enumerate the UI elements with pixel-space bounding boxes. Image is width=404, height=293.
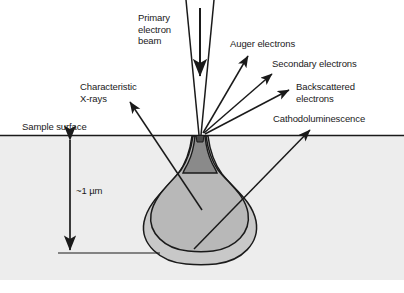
beam-edge-left	[186, 0, 199, 135]
secondary-label: Secondary electrons	[272, 58, 357, 70]
sample-surface-label: Sample surface	[22, 121, 87, 133]
beam-edge-right	[201, 0, 214, 135]
characteristic-xrays-label: Characteristic X-rays	[80, 81, 137, 104]
primary-beam-label: Primary electron beam	[138, 12, 171, 47]
impact-cap	[196, 136, 204, 143]
auger-arrow	[203, 56, 248, 133]
backscattered-label: Backscattered electrons	[296, 81, 355, 104]
auger-label: Auger electrons	[230, 38, 295, 50]
interaction-volume-diagram: Primary electron beam Auger electrons Se…	[0, 0, 404, 293]
depth-label: ~1 µm	[76, 185, 102, 197]
diagram-canvas	[0, 0, 404, 293]
cathodoluminescence-label: Cathodoluminescence	[273, 113, 365, 125]
